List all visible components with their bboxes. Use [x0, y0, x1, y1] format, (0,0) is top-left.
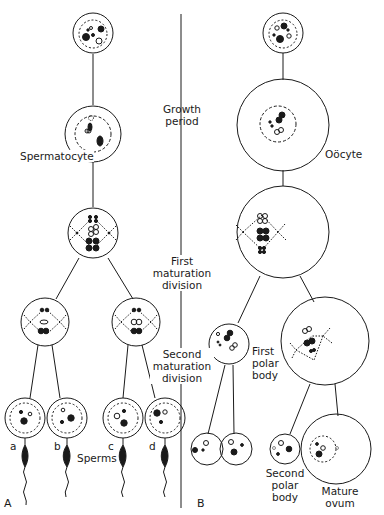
- label-line: ovum: [318, 497, 362, 509]
- label-spermatid-c: c: [108, 440, 114, 452]
- spermatid-c: [103, 398, 143, 438]
- label-line: maturation: [150, 360, 214, 372]
- spermatid-d: [145, 398, 185, 438]
- label-line: First: [252, 345, 279, 357]
- first-polar-body-daughter-right: [220, 433, 252, 465]
- label-first-polar-body: First polar body: [252, 345, 279, 381]
- first-polar-body-daughter-left: [191, 433, 223, 465]
- label-oocyte: Oöcyte: [325, 148, 362, 160]
- spermatid-a: [5, 398, 45, 438]
- label-line: Second: [150, 348, 214, 360]
- label-line: Growth: [150, 103, 214, 115]
- oocyte-cell: [237, 79, 329, 171]
- label-first-maturation-division: First maturation division: [150, 255, 214, 291]
- label-spermatid-b: b: [54, 440, 61, 452]
- first-polar-body-cell: [209, 324, 249, 364]
- primary-oocyte-dividing: [236, 186, 329, 278]
- label-line: period: [150, 115, 214, 127]
- label-second-maturation-division: Second maturation division: [150, 348, 214, 384]
- label-line: polar: [252, 357, 279, 369]
- label-mature-ovum: Mature ovum: [318, 485, 362, 509]
- label-spermatid-a: a: [10, 440, 16, 452]
- label-line: body: [262, 491, 308, 503]
- label-growth-period: Growth period: [150, 103, 214, 127]
- secondary-spermatocyte-right: [112, 298, 160, 346]
- label-line: division: [150, 372, 214, 384]
- primary-spermatocyte-dividing: [68, 208, 118, 258]
- label-line: First: [150, 255, 214, 267]
- sperm-b: [63, 438, 70, 497]
- label-spermatid-d: d: [149, 440, 156, 452]
- label-second-polar-body: Second polar body: [262, 467, 308, 503]
- secondary-spermatocyte-left: [21, 298, 69, 346]
- label-line: Second: [262, 467, 308, 479]
- label-sperms: Sperms: [77, 452, 117, 464]
- sperm-c: [119, 438, 126, 497]
- label-line: body: [252, 369, 279, 381]
- label-line: Mature: [318, 485, 362, 497]
- secondary-oocyte-dividing: [281, 297, 369, 385]
- spermatogonium-cell: [73, 13, 113, 53]
- label-spermatocyte: Spermatocyte: [20, 150, 94, 162]
- label-line: division: [150, 279, 214, 291]
- oogonium-cell: [263, 13, 303, 53]
- sperm-d: [161, 438, 168, 497]
- mature-ovum-cell: [301, 414, 371, 484]
- panel-label-b: B: [197, 498, 205, 510]
- panel-label-a: A: [4, 498, 12, 510]
- label-line: polar: [262, 479, 308, 491]
- label-line: maturation: [150, 267, 214, 279]
- sperm-a: [22, 438, 28, 505]
- second-polar-body-cell: [270, 434, 300, 464]
- spermatid-b: [47, 398, 87, 438]
